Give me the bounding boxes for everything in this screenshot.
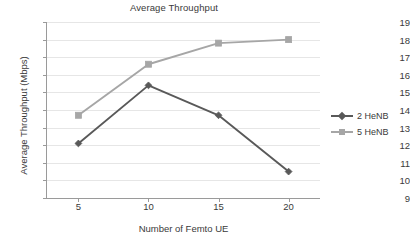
y-tick-label: 10 <box>370 175 410 186</box>
y-axis-title: Average Throughput (Mbps) <box>18 21 29 211</box>
y-tick-label: 12 <box>370 140 410 151</box>
x-tick-label: 15 <box>199 201 239 212</box>
y-tick-label: 11 <box>370 157 410 168</box>
y-tick-mark <box>43 198 47 199</box>
legend-item-5henb[interactable]: 5 HeNB <box>331 124 389 140</box>
x-tick-label: 20 <box>269 201 309 212</box>
legend-label-2henb: 2 HeNB <box>357 111 389 121</box>
series-line-5-henb <box>78 40 288 116</box>
x-tick-mark <box>289 198 290 202</box>
legend-swatch-2henb <box>331 111 353 121</box>
y-tick-label: 18 <box>370 34 410 45</box>
y-tick-label: 9 <box>370 193 410 204</box>
x-tick-mark <box>78 198 79 202</box>
x-tick-label: 10 <box>128 201 168 212</box>
y-tick-label: 19 <box>370 17 410 28</box>
chart-legend: 2 HeNB 5 HeNB <box>331 108 389 140</box>
chart-container: Average Throughput 191817161514131211109… <box>0 0 410 246</box>
legend-item-2henb[interactable]: 2 HeNB <box>331 108 389 124</box>
series-line-2-henb <box>78 85 288 171</box>
x-tick-mark <box>219 198 220 202</box>
x-axis-title: Number of Femto UE <box>47 223 320 234</box>
y-tick-label: 17 <box>370 52 410 63</box>
data-point <box>216 40 222 46</box>
data-point <box>145 61 151 67</box>
x-tick-mark <box>148 198 149 202</box>
chart-title: Average Throughput <box>0 2 348 13</box>
data-point <box>75 112 81 118</box>
y-tick-label: 16 <box>370 69 410 80</box>
x-tick-label: 5 <box>58 201 98 212</box>
data-point <box>286 37 292 43</box>
series-plot <box>47 22 320 198</box>
legend-label-5henb: 5 HeNB <box>357 127 389 137</box>
y-tick-label: 15 <box>370 87 410 98</box>
x-axis-line <box>46 198 320 199</box>
legend-swatch-5henb <box>331 127 353 137</box>
